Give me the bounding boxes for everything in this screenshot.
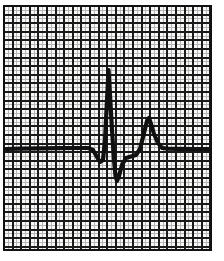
ecg-figure: Electrocardiogram tracing on ECG graph p… bbox=[0, 0, 224, 261]
ecg-chart-svg: Electrocardiogram tracing on ECG graph p… bbox=[0, 0, 224, 261]
